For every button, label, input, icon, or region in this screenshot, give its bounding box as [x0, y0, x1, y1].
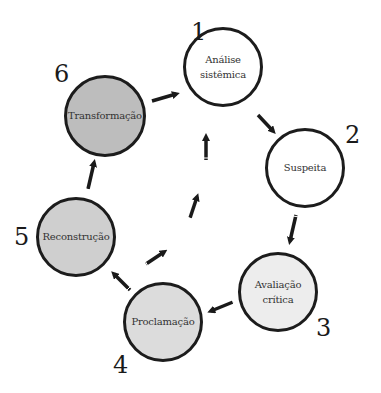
node-transformacao: Transformação [64, 75, 146, 157]
arrow-2-to-3 [290, 215, 296, 241]
node-2-label: Suspeita [284, 160, 326, 176]
step-number-2: 2 [345, 123, 360, 147]
arrow-5-to-6 [88, 163, 94, 189]
node-6-label: Transformação [68, 108, 142, 124]
step-number-6: 6 [54, 62, 69, 86]
node-suspeita: Suspeita [265, 128, 345, 208]
inner-arrow-2 [190, 197, 197, 218]
step-number-1: 1 [191, 20, 206, 44]
node-1-label-line1: Análise [200, 52, 246, 68]
arrow-1-to-2 [258, 115, 273, 131]
step-number-3: 3 [316, 316, 331, 340]
inner-arrow-1 [146, 252, 164, 264]
node-proclamacao: Proclamação [123, 282, 203, 362]
node-4-label: Proclamação [131, 314, 194, 330]
node-3-label-line1: Avaliação [255, 277, 302, 293]
step-number-4: 4 [113, 353, 128, 377]
arrow-6-to-1 [152, 94, 176, 101]
arrow-4-to-5 [114, 274, 130, 290]
node-avaliacao-critica: Avaliação crítica [238, 252, 318, 332]
node-1-label-line2: sistêmica [200, 67, 246, 83]
node-reconstrucao: Reconstrução [36, 197, 116, 277]
node-5-label: Reconstrução [42, 229, 109, 245]
step-number-5: 5 [14, 225, 29, 249]
node-3-label-line2: crítica [255, 292, 302, 308]
arrow-3-to-4 [211, 302, 233, 311]
